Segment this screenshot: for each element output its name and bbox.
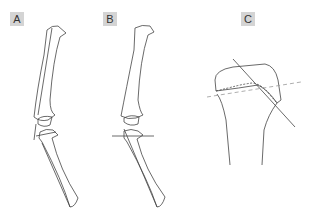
panel-c-tibia-closeup (207, 59, 301, 165)
panel-a-tibia (34, 124, 78, 207)
panel-b-tibia (112, 129, 165, 207)
bone-diagram (0, 0, 311, 222)
panel-b-femur (121, 25, 154, 125)
panel-a-femur (34, 26, 66, 126)
panel-c-solid-line (233, 59, 295, 127)
